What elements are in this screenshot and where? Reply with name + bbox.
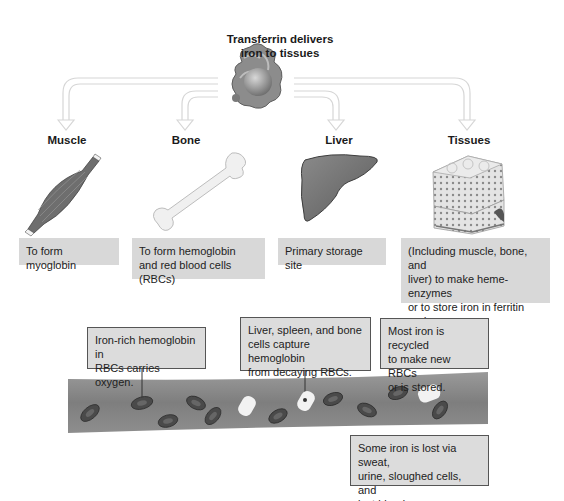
label-liver: Liver	[289, 134, 389, 146]
callout-capture: Liver, spleen, and bone cells capture he…	[240, 317, 371, 371]
muscle-info-box: To form myoglobin	[19, 238, 119, 265]
diagram-title: Transferrin delivers iron to tissues	[200, 32, 360, 60]
callout-rbc-oxygen: Iron-rich hemoglobin in RBCs carries oxy…	[87, 327, 206, 369]
callout-iron-lost: Some iron is lost via sweat, urine, slou…	[350, 435, 489, 486]
label-muscle: Muscle	[17, 134, 117, 146]
label-bone: Bone	[136, 134, 236, 146]
bone-info-box: To form hemoglobin and red blood cells (…	[132, 238, 265, 279]
tissue-icon	[433, 156, 504, 234]
callout-recycled: Most iron is recycled to make new RBCs o…	[380, 318, 489, 369]
bone-icon	[153, 153, 245, 231]
label-tissues: Tissues	[419, 134, 519, 146]
muscle-icon	[25, 154, 101, 236]
liver-info-box: Primary storage site	[278, 238, 386, 265]
tissues-info-box: (Including muscle, bone, and liver) to m…	[401, 238, 550, 303]
liver-icon	[301, 155, 377, 221]
